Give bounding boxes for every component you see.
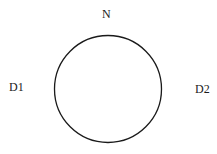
circle	[55, 36, 162, 143]
diagram-svg	[0, 0, 217, 154]
label-d1: D1	[9, 81, 24, 93]
label-n: N	[102, 8, 111, 20]
diagram-canvas: N D1 D2	[0, 0, 217, 154]
label-d2: D2	[195, 83, 210, 95]
